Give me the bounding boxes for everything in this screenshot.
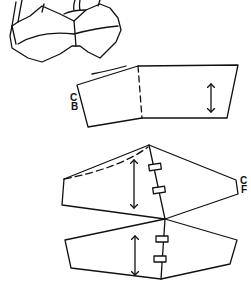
pattern-diagram (0, 0, 251, 294)
shadow-stroke (92, 66, 126, 74)
bra-illustration (10, 0, 121, 62)
cb-label-b: B (71, 102, 78, 111)
upper-cup-piece (62, 145, 238, 219)
cf-label-f: F (241, 185, 247, 194)
lower-cup-piece (65, 219, 237, 279)
band-piece (77, 65, 238, 127)
